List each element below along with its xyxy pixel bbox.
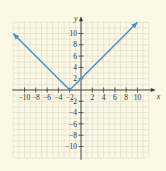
graph-canvas: x y −10−8−6−4−2246810108642−2−4−6−8−10 xyxy=(0,0,166,171)
y-tick-label: 2 xyxy=(73,74,77,83)
x-tick-label: 2 xyxy=(90,93,94,102)
y-axis-arrow-icon xyxy=(79,16,83,21)
y-tick-label: 6 xyxy=(73,52,77,61)
x-tick-label: −6 xyxy=(43,93,51,102)
x-tick-label: −10 xyxy=(19,93,31,102)
y-tick-label: −10 xyxy=(65,142,77,151)
x-tick-label: −4 xyxy=(54,93,62,102)
x-tick-label: −8 xyxy=(32,93,40,102)
x-tick-label: 6 xyxy=(113,93,117,102)
x-axis-label: x xyxy=(156,92,161,101)
x-tick-label: 10 xyxy=(134,93,142,102)
y-tick-label: 4 xyxy=(73,63,77,72)
y-tick-label: −6 xyxy=(69,120,77,129)
x-tick-label: 8 xyxy=(124,93,128,102)
x-tick-label: 4 xyxy=(102,93,106,102)
y-tick-label: −8 xyxy=(69,131,77,140)
y-tick-label: −4 xyxy=(69,108,77,117)
y-tick-label: 10 xyxy=(70,29,78,38)
x-axis-arrow-icon xyxy=(151,88,156,92)
y-tick-label: 8 xyxy=(73,40,77,49)
y-axis-label: y xyxy=(73,14,78,23)
y-tick-label: −2 xyxy=(69,97,77,106)
